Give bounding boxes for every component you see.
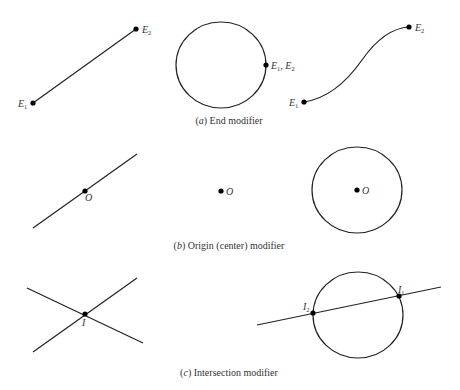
panel-b-origin-modifier: O O O (b) Origin (center) modifier: [33, 147, 402, 252]
panel-c-intersection-modifier: I I1 I2 (c) Intersection modifier: [27, 272, 441, 379]
endpoint-e1: [301, 99, 306, 104]
modifier-figure: E1 E2 E1, E2 E1 E2 (a) End modifier O O: [0, 0, 460, 390]
end-curve: E1 E2: [288, 22, 424, 109]
label-i: I: [81, 317, 86, 328]
origin-line: O: [33, 154, 137, 228]
origin-point-only: O: [218, 186, 233, 197]
endpoint-e1: [30, 100, 35, 105]
label-i2: I2: [302, 301, 310, 313]
endpoint-e2: [133, 26, 138, 31]
caption-b: (b) Origin (center) modifier: [174, 240, 285, 252]
label-e2: E2: [141, 24, 151, 36]
caption-c: (c) Intersection modifier: [180, 367, 278, 379]
origin-circle: O: [312, 147, 402, 233]
label-e2: E2: [414, 22, 424, 34]
circle-outline: [176, 22, 266, 108]
panel-a-end-modifier: E1 E2 E1, E2 E1 E2 (a) End modifier: [17, 22, 424, 127]
circle-outline: [313, 272, 403, 358]
end-line: E1 E2: [17, 24, 151, 110]
curve-path: [304, 27, 409, 102]
intersection-point-i2: [310, 310, 315, 315]
line-segment: [33, 29, 136, 103]
caption-a: (a) End modifier: [195, 115, 263, 127]
endpoint-e1-e2: [263, 62, 268, 67]
line-segment: [257, 287, 441, 325]
label-o: O: [85, 192, 92, 203]
intersection-point: [82, 311, 87, 316]
end-circle: E1, E2: [176, 22, 295, 108]
intersection-crossing-lines: I: [27, 278, 143, 352]
label-o: O: [362, 185, 369, 196]
label-i1: I1: [397, 284, 405, 296]
origin-point: [354, 187, 359, 192]
label-e1: E1: [17, 98, 27, 110]
endpoint-e2: [406, 24, 411, 29]
label-o: O: [226, 186, 233, 197]
intersection-line-circle: I1 I2: [257, 272, 441, 358]
label-e1: E1: [288, 97, 298, 109]
label-e1-e2: E1, E2: [270, 60, 295, 72]
origin-point: [218, 188, 223, 193]
